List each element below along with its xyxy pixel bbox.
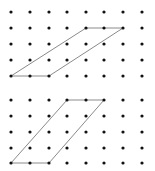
grid-dot	[84, 26, 87, 29]
grid-dot	[121, 98, 124, 101]
grid-dot	[47, 26, 50, 29]
grid-dot	[47, 146, 50, 149]
grid-dot	[121, 42, 124, 45]
grid-dot	[140, 74, 143, 77]
grid-dot	[28, 26, 31, 29]
grid-dot	[9, 114, 12, 117]
grid-dot	[140, 161, 143, 164]
grid-dot	[28, 10, 31, 13]
grid-dot	[65, 161, 68, 164]
grid-dot	[140, 42, 143, 45]
grid-dot	[65, 74, 68, 77]
grid-dot	[121, 74, 124, 77]
grid-dot	[102, 42, 105, 45]
grid-dot	[84, 10, 87, 13]
grid-dot	[28, 161, 31, 164]
grid-dot	[47, 130, 50, 133]
grid-dot	[102, 161, 105, 164]
grid-dot	[102, 10, 105, 13]
grid-dot	[140, 58, 143, 61]
grid-dot	[47, 42, 50, 45]
grid-dot	[121, 10, 124, 13]
grid-dot	[47, 98, 50, 101]
grid-dot	[102, 58, 105, 61]
grid-dot	[65, 42, 68, 45]
grid-dot	[28, 114, 31, 117]
grid-dot	[28, 74, 31, 77]
grid-dot	[84, 161, 87, 164]
grid-dot	[47, 114, 50, 117]
grid-dot	[102, 130, 105, 133]
parallelogram	[11, 28, 123, 76]
grid-dot	[65, 114, 68, 117]
grid-dot	[9, 42, 12, 45]
grid-dot	[102, 26, 105, 29]
grid-dot	[84, 114, 87, 117]
grid-dot	[28, 130, 31, 133]
grid-dot	[9, 74, 12, 77]
grid-dot	[65, 10, 68, 13]
dot-grid-diagram	[0, 0, 155, 171]
grid-dot	[102, 74, 105, 77]
grid-dot	[47, 74, 50, 77]
grid-dot	[9, 98, 12, 101]
grid-dot	[121, 161, 124, 164]
grid-dot	[65, 146, 68, 149]
grid-dot	[9, 26, 12, 29]
grid-dot	[9, 130, 12, 133]
grid-dot	[84, 130, 87, 133]
grid-dot	[9, 161, 12, 164]
grid-dot	[84, 98, 87, 101]
grid-dot	[121, 26, 124, 29]
grid-dot	[9, 10, 12, 13]
grid-dot	[65, 98, 68, 101]
grid-dot	[140, 98, 143, 101]
grid-dot	[65, 58, 68, 61]
grid-dot	[28, 58, 31, 61]
grid-dot	[84, 42, 87, 45]
top-dot-grid	[9, 10, 143, 77]
grid-dot	[102, 146, 105, 149]
parallelogram	[11, 100, 104, 163]
grid-dot	[9, 146, 12, 149]
grid-dot	[121, 130, 124, 133]
grid-dot	[84, 146, 87, 149]
grid-dot	[102, 98, 105, 101]
grid-dot	[28, 146, 31, 149]
grid-dot	[47, 58, 50, 61]
grid-dot	[47, 10, 50, 13]
grid-dot	[47, 161, 50, 164]
grid-dot	[28, 98, 31, 101]
grid-dot	[121, 146, 124, 149]
grid-dot	[140, 26, 143, 29]
grid-dot	[140, 10, 143, 13]
grid-dot	[140, 146, 143, 149]
grid-dot	[65, 130, 68, 133]
bottom-dot-grid	[9, 98, 143, 164]
grid-dot	[121, 58, 124, 61]
grid-dot	[9, 58, 12, 61]
grid-dot	[28, 42, 31, 45]
grid-dot	[65, 26, 68, 29]
grid-dot	[84, 58, 87, 61]
grid-dot	[140, 114, 143, 117]
grid-dot	[84, 74, 87, 77]
grid-dot	[140, 130, 143, 133]
grid-dot	[121, 114, 124, 117]
grid-dot	[102, 114, 105, 117]
